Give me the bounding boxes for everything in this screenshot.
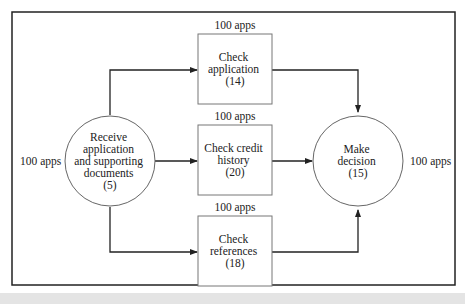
edge-check-references-to-decision — [272, 210, 358, 252]
output-flow-label: 100 apps — [410, 155, 452, 168]
node-check-references: Check references (18) — [198, 216, 272, 286]
check-application-flow-label: 100 apps — [214, 19, 256, 32]
bottom-strip — [0, 293, 465, 304]
node-receive-application: Receive application and supporting docum… — [65, 116, 155, 206]
input-flow-label: 100 apps — [20, 155, 62, 168]
check-credit-flow-label: 100 apps — [214, 110, 256, 123]
edge-receive-to-check-application — [110, 70, 197, 115]
node-check-credit-history: Check credit history (20) — [198, 125, 272, 195]
edge-receive-to-check-references — [110, 207, 197, 252]
flow-diagram: Receive application and supporting docum… — [0, 0, 465, 304]
edge-check-application-to-decision — [272, 70, 358, 112]
node-make-decision: Make decision (15) — [313, 116, 403, 206]
node-check-application: Check application (14) — [198, 34, 272, 104]
check-references-flow-label: 100 apps — [214, 201, 256, 214]
